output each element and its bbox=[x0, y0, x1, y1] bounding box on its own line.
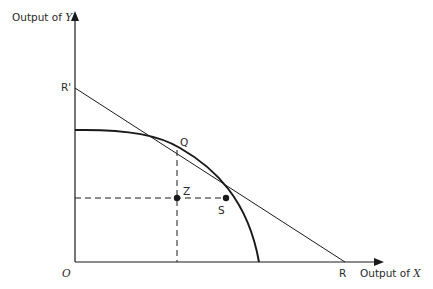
diagram-canvas bbox=[0, 0, 433, 289]
ppf-curve bbox=[75, 130, 259, 262]
ppf-diagram: Output of Y R' Q Z S O R Output of X bbox=[0, 0, 433, 289]
label-q: Q bbox=[180, 137, 188, 148]
label-r: R bbox=[339, 268, 346, 279]
x-axis-arrow-icon bbox=[374, 258, 384, 266]
label-s: S bbox=[218, 205, 225, 216]
label-z: Z bbox=[183, 186, 190, 197]
y-axis-label: Output of Y bbox=[12, 12, 72, 23]
label-r-prime: R' bbox=[61, 82, 71, 93]
price-line-r-prime-r bbox=[75, 88, 345, 262]
point-s bbox=[223, 195, 229, 201]
point-z bbox=[174, 195, 180, 201]
origin-label: O bbox=[62, 268, 71, 279]
x-axis-label: Output of X bbox=[360, 268, 421, 279]
